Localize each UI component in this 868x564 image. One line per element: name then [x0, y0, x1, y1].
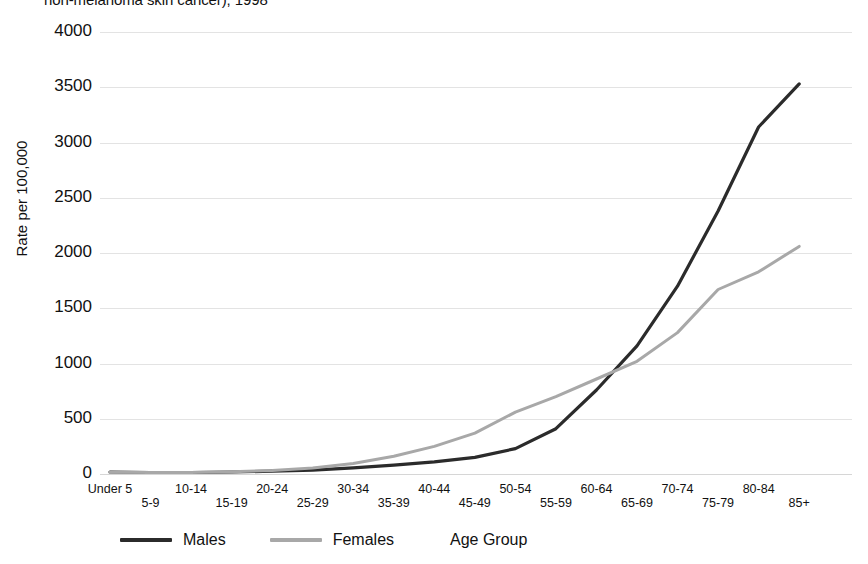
chart-legend: MalesFemales: [120, 528, 438, 552]
series-line-females: [110, 246, 799, 472]
x-tick-label: 25-29: [297, 496, 329, 510]
x-tick-label: 75-79: [702, 496, 734, 510]
x-tick-label: 15-19: [216, 496, 248, 510]
chart-title: non-melanoma skin cancer), 1998: [44, 0, 268, 8]
plot-area: [100, 32, 852, 474]
legend-item-females[interactable]: Females: [270, 531, 394, 549]
x-tick-label: 80-84: [743, 482, 775, 496]
y-tick-label: 3000: [0, 132, 92, 152]
legend-swatch-icon: [120, 538, 172, 542]
x-tick-label: 20-24: [256, 482, 288, 496]
x-tick-label: Under 5: [88, 482, 132, 496]
x-tick-label: 70-74: [662, 482, 694, 496]
y-tick-label: 1500: [0, 297, 92, 317]
x-tick-label: 60-64: [580, 482, 612, 496]
y-tick-label: 2000: [0, 242, 92, 262]
legend-label: Males: [183, 531, 226, 549]
y-tick-label: 3500: [0, 76, 92, 96]
x-tick-label: 30-34: [337, 482, 369, 496]
series-line-males: [110, 84, 799, 473]
x-tick-label: 10-14: [175, 482, 207, 496]
x-tick-label: 55-59: [540, 496, 572, 510]
legend-item-males[interactable]: Males: [120, 531, 226, 549]
y-axis-tick-labels: 05001000150020002500300035004000: [0, 32, 92, 474]
x-axis-tick-labels: Under 55-910-1415-1920-2425-2930-3435-39…: [100, 474, 852, 514]
x-tick-label: 5-9: [141, 496, 159, 510]
x-tick-label: 65-69: [621, 496, 653, 510]
x-tick-label: 45-49: [459, 496, 491, 510]
x-tick-label: 35-39: [378, 496, 410, 510]
legend-swatch-icon: [270, 538, 322, 542]
x-tick-label: 40-44: [418, 482, 450, 496]
chart-container: non-melanoma skin cancer), 1998 Rate per…: [0, 0, 868, 564]
x-axis-title: Age Group: [450, 528, 527, 552]
y-tick-label: 4000: [0, 21, 92, 41]
y-tick-label: 500: [0, 408, 92, 428]
y-tick-label: 1000: [0, 353, 92, 373]
legend-label: Females: [333, 531, 394, 549]
y-tick-label: 2500: [0, 187, 92, 207]
x-tick-label: 50-54: [499, 482, 531, 496]
y-tick-label: 0: [0, 463, 92, 483]
x-tick-label: 85+: [789, 496, 810, 510]
series-lines: [100, 32, 852, 474]
